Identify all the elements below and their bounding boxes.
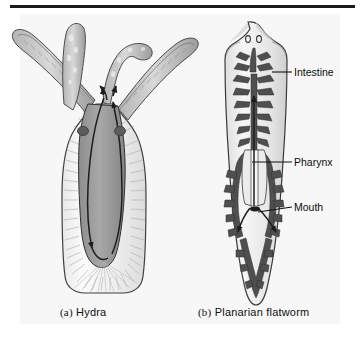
diagram-artwork	[0, 0, 360, 355]
caption-index-b: (b)	[198, 306, 211, 318]
caption-label-b: Planarian flatworm	[215, 306, 310, 318]
hydra-cell-left	[78, 126, 89, 135]
label-intestine: Intestine	[294, 66, 334, 78]
caption-label-a: Hydra	[76, 306, 106, 318]
figure-container: Intestine Pharynx Mouth (a) Hydra (b) Pl…	[0, 0, 360, 355]
label-pharynx: Pharynx	[294, 156, 333, 168]
label-mouth: Mouth	[294, 201, 323, 213]
caption-index-a: (a)	[60, 306, 73, 318]
caption-planarian: (b) Planarian flatworm	[198, 306, 309, 318]
planarian-illustration	[224, 22, 287, 305]
hydra-cell-right	[115, 126, 126, 135]
caption-hydra: (a) Hydra	[60, 306, 106, 318]
hydra-body	[62, 86, 146, 293]
hydra-illustration	[12, 23, 198, 293]
